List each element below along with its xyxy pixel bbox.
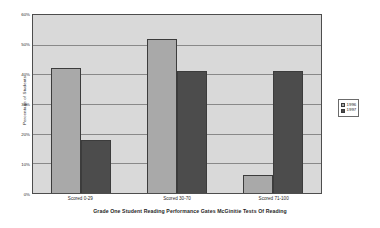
bar-group bbox=[129, 15, 225, 193]
legend-swatch-icon bbox=[341, 103, 345, 107]
y-tick-label: 0% bbox=[14, 192, 30, 197]
y-axis-tick-labels: 0%10%20%30%40%50%60% bbox=[14, 14, 30, 194]
x-tick-label: Scored 71-100 bbox=[225, 196, 322, 201]
chart-legend: 19961997 bbox=[338, 99, 359, 117]
y-tick-label: 30% bbox=[14, 102, 30, 107]
plot-area bbox=[32, 14, 322, 194]
bar-1996-scored-71-100[interactable] bbox=[243, 175, 273, 193]
y-tick-label: 50% bbox=[14, 42, 30, 47]
y-tick-label: 10% bbox=[14, 162, 30, 167]
bar-chart: Percentage of Students 0%10%20%30%40%50%… bbox=[0, 0, 380, 228]
bar-1997-scored-71-100[interactable] bbox=[273, 71, 303, 193]
x-tick-label: Scored 0-29 bbox=[32, 196, 129, 201]
y-tick-label: 40% bbox=[14, 72, 30, 77]
y-tick-label: 20% bbox=[14, 132, 30, 137]
bar-group bbox=[33, 15, 129, 193]
chart-caption: Grade One Student Reading Performance Ga… bbox=[0, 208, 380, 214]
bar-1996-scored-0-29[interactable] bbox=[51, 68, 81, 193]
x-axis-tick-labels: Scored 0-29Scored 30-70Scored 71-100 bbox=[32, 196, 322, 201]
legend-label: 1997 bbox=[347, 108, 357, 112]
bar-group bbox=[225, 15, 321, 193]
bar-1996-scored-30-70[interactable] bbox=[147, 39, 177, 193]
bar-1997-scored-0-29[interactable] bbox=[81, 140, 111, 193]
legend-item-1997[interactable]: 1997 bbox=[341, 108, 356, 112]
legend-swatch-icon bbox=[341, 109, 345, 113]
bar-1997-scored-30-70[interactable] bbox=[177, 71, 207, 193]
bars-layer bbox=[33, 15, 321, 193]
y-tick-label: 60% bbox=[14, 12, 30, 17]
x-tick-label: Scored 30-70 bbox=[129, 196, 226, 201]
